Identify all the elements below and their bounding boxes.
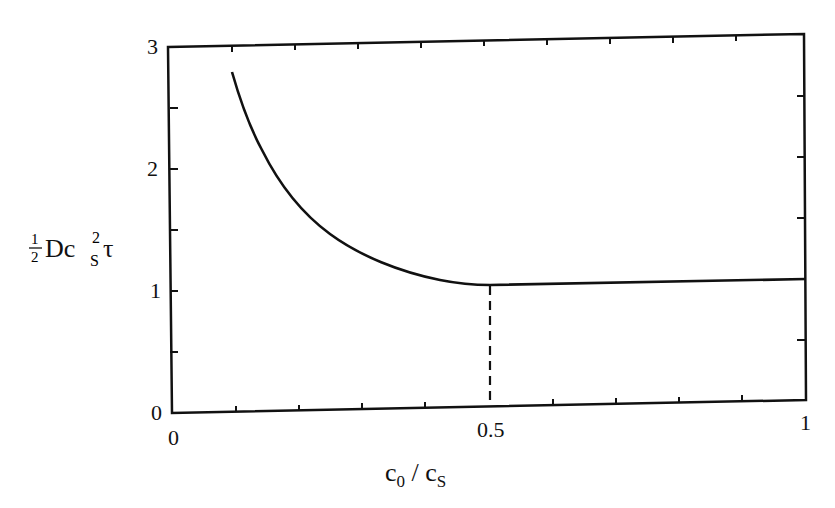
svg-text:2: 2 [92, 229, 100, 246]
x-axis-label: c0 / cS [385, 458, 446, 491]
svg-text:τ: τ [103, 234, 113, 263]
svg-text:2: 2 [31, 249, 39, 265]
svg-text:Dc: Dc [45, 234, 75, 263]
y-tick-0: 0 [151, 400, 162, 425]
x-tick-0: 0 [168, 425, 179, 450]
x-tick-05: 0.5 [477, 417, 505, 442]
y-tick-2: 2 [147, 156, 158, 181]
plot-frame [168, 34, 806, 413]
y-tick-3: 3 [147, 34, 158, 59]
x-tick-1: 1 [800, 410, 811, 435]
chart: 3 2 1 0 0 0.5 1 c0 / cS 1 2 Dc 2 S τ [0, 0, 835, 508]
svg-text:S: S [90, 252, 99, 269]
data-curve [232, 72, 806, 285]
svg-text:1: 1 [31, 231, 39, 247]
y-axis-label: 1 2 Dc 2 S τ [29, 229, 113, 269]
y-tick-1: 1 [150, 278, 161, 303]
